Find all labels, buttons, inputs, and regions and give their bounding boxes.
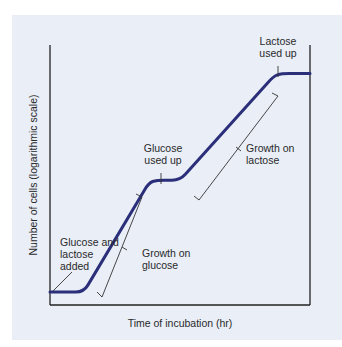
annotation-line: Glucose and bbox=[60, 236, 119, 248]
growth-curve-chart: Glucose andlactoseaddedGrowth onglucoseG… bbox=[0, 0, 342, 347]
annotation-line: added bbox=[60, 260, 89, 272]
annotation-line: Growth on bbox=[246, 142, 295, 154]
annotation-line: used up bbox=[144, 154, 182, 166]
annotation-glucose-lactose-added: Glucose andlactoseadded bbox=[60, 236, 119, 272]
annotation-glucose-used-up: Glucoseused up bbox=[144, 142, 183, 166]
annotation-line: Lactose bbox=[260, 35, 297, 47]
glucose-lactose-added-pointer bbox=[53, 272, 72, 291]
glucose-bracket-tick bbox=[122, 247, 127, 250]
annotation-line: lactose bbox=[60, 248, 93, 260]
x-axis-label: Time of incubation (hr) bbox=[128, 317, 233, 329]
y-axis-label: Number of cells (logarithmic scale) bbox=[27, 94, 39, 255]
annotation-line: Glucose bbox=[144, 142, 183, 154]
annotation-line: glucose bbox=[142, 259, 178, 271]
annotation-growth-on-lactose: Growth onlactose bbox=[246, 142, 295, 166]
annotation-line: lactose bbox=[246, 154, 279, 166]
annotation-growth-on-glucose: Growth onglucose bbox=[142, 247, 191, 271]
annotation-line: used up bbox=[259, 47, 297, 59]
annotation-lactose-used-up: Lactoseused up bbox=[259, 35, 297, 59]
annotation-line: Growth on bbox=[142, 247, 191, 259]
